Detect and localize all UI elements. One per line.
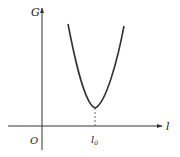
y-axis-label: G [31, 6, 40, 19]
g-curve [68, 24, 124, 108]
minimum-label-subscript: 0 [94, 139, 98, 146]
graph-canvas: G l O l0 [0, 0, 180, 157]
x-axis-label: l [166, 120, 170, 133]
minimum-label: l0 [91, 134, 98, 146]
origin-label: O [30, 135, 38, 146]
